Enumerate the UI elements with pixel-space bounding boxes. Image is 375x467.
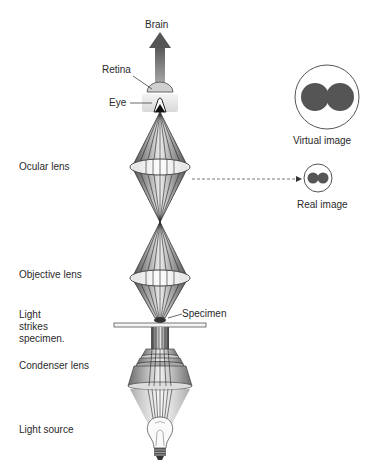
ocular-lens-label: Ocular lens [19, 161, 70, 173]
brain-label: Brain [145, 19, 168, 31]
light-source-label: Light source [19, 424, 73, 436]
microscope-slide [114, 323, 206, 327]
microscope-light-path-diagram [0, 0, 375, 467]
real-image-label: Real image [297, 199, 348, 211]
objective-lens-label: Objective lens [19, 269, 82, 281]
condenser-lens [128, 349, 192, 390]
light-strikes-specimen-label: Light strikes specimen. [19, 309, 65, 345]
eye-label: Eye [109, 97, 126, 109]
retina-arc [147, 82, 173, 92]
condenser-lens-label: Condenser lens [19, 360, 89, 372]
specimen-dot [154, 317, 166, 323]
virtual-image-label: Virtual image [293, 135, 351, 147]
light-bulb-icon [147, 417, 172, 460]
specimen-label: Specimen [182, 308, 226, 320]
retina-label: Retina [102, 64, 131, 76]
real-image [304, 164, 332, 192]
virtual-image [295, 65, 359, 129]
parallel-light-beam [151, 327, 169, 349]
